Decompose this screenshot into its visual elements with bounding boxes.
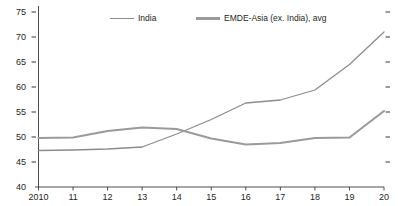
legend-label: EMDE-Asia (ex. India), avg bbox=[224, 14, 327, 23]
x-tick-label: 15 bbox=[194, 193, 228, 202]
x-axis-ticks bbox=[39, 187, 385, 191]
x-tick-label: 2010 bbox=[22, 193, 56, 202]
y-tick-label: 45 bbox=[8, 158, 26, 167]
y-tick-label: 60 bbox=[8, 83, 26, 92]
x-tick-label: 17 bbox=[263, 193, 297, 202]
chart-axes bbox=[39, 6, 385, 187]
legend-line-swatch bbox=[196, 17, 220, 19]
y-tick-label: 70 bbox=[8, 33, 26, 42]
y-tick-label: 55 bbox=[8, 108, 26, 117]
x-tick-label: 14 bbox=[160, 193, 194, 202]
y-tick-label: 40 bbox=[8, 183, 26, 192]
y-tick-label: 65 bbox=[8, 58, 26, 67]
y-tick-label: 50 bbox=[8, 133, 26, 142]
legend-line-swatch bbox=[110, 18, 134, 19]
x-tick-label: 13 bbox=[125, 193, 159, 202]
legend-item-emde-asia: EMDE-Asia (ex. India), avg bbox=[196, 14, 327, 23]
x-tick-label: 20 bbox=[367, 193, 398, 202]
x-tick-label: 16 bbox=[229, 193, 263, 202]
series-line-emde-asia bbox=[39, 111, 385, 145]
line-chart-canvas bbox=[0, 0, 398, 206]
chart-container: 4045505560657075 20101112131415161718192… bbox=[0, 0, 398, 206]
x-tick-label: 11 bbox=[56, 193, 90, 202]
series-line-india bbox=[39, 32, 385, 151]
legend-item-india: India bbox=[110, 14, 156, 23]
y-axis-ticks bbox=[32, 12, 391, 187]
y-tick-label: 75 bbox=[8, 8, 26, 17]
x-tick-label: 19 bbox=[332, 193, 366, 202]
legend-label: India bbox=[138, 14, 156, 23]
x-tick-label: 12 bbox=[91, 193, 125, 202]
x-tick-label: 18 bbox=[298, 193, 332, 202]
